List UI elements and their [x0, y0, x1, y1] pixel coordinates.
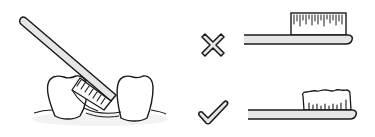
gum-line-left: [34, 110, 52, 113]
cross-mark-icon: [202, 34, 224, 56]
right-tooth-icon: [117, 76, 153, 121]
right-brush-handle: [248, 110, 356, 119]
gum-line-right: [151, 110, 166, 114]
right-toothbrush-icon: [248, 90, 356, 119]
illustration-canvas: brushing at gum line wrong right: [0, 0, 375, 137]
wrong-brush-handle: [244, 35, 352, 44]
left-scene: [20, 17, 168, 126]
wrong-toothbrush-icon: [244, 13, 352, 44]
check-mark-icon: [199, 101, 228, 124]
soft-bristle-block: [303, 90, 351, 110]
